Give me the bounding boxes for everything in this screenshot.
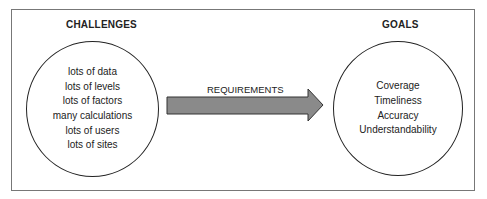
goal-item: Timeliness <box>374 94 421 109</box>
goals-circle: Coverage Timeliness Accuracy Understanda… <box>333 41 463 176</box>
goal-item: Understandability <box>359 123 436 138</box>
goal-item: Coverage <box>376 79 419 94</box>
goal-item: Accuracy <box>377 109 418 124</box>
goals-title: GOALS <box>382 19 419 30</box>
